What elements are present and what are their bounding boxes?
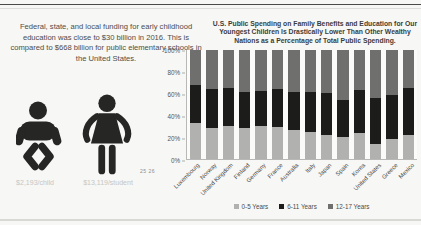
segment-6-11-years	[223, 88, 234, 126]
segment-0-5-years	[223, 126, 234, 160]
bar-norway	[206, 50, 217, 159]
legend: 0-5 Years6-11 Years12-17 Years	[186, 203, 417, 210]
spending-chart: U.S. Public Spending on Family Benefits …	[156, 20, 420, 210]
segment-0-5-years	[386, 139, 397, 160]
legend-label: 0-5 Years	[242, 203, 269, 210]
y-tick-60pct: 60%	[167, 91, 180, 98]
y-axis: 0%20%40%60%80%100%	[156, 50, 186, 160]
segment-6-11-years	[272, 89, 283, 127]
segment-0-5-years	[337, 137, 348, 160]
legend-label: 6-11 Years	[287, 203, 317, 210]
segment-12-17-years	[305, 50, 316, 91]
bar-france	[272, 50, 283, 159]
cost-per-child-label: $2,193/child	[0, 179, 70, 186]
bar-italy	[305, 50, 316, 159]
legend-swatch	[234, 204, 239, 209]
legend-swatch	[279, 204, 284, 209]
segment-6-11-years	[206, 89, 217, 128]
baby-icon	[16, 100, 66, 176]
segment-0-5-years	[272, 127, 283, 160]
segment-6-11-years	[403, 88, 414, 136]
segment-12-17-years	[403, 50, 414, 87]
bar-germany	[255, 50, 266, 159]
segment-12-17-years	[321, 50, 332, 93]
segment-0-5-years	[370, 144, 381, 159]
legend-swatch	[328, 204, 333, 209]
segment-12-17-years	[272, 50, 283, 88]
x-label-luxembourg: Luxembourg	[173, 162, 201, 190]
segment-6-11-years	[354, 90, 365, 134]
segment-6-11-years	[321, 93, 332, 136]
plot-area	[186, 50, 417, 160]
bar-japan	[321, 50, 332, 159]
segment-12-17-years	[337, 50, 348, 99]
segment-6-11-years	[239, 92, 250, 128]
y-tick-20pct: 20%	[167, 135, 180, 142]
segment-0-5-years	[354, 133, 365, 159]
bar-korea	[354, 50, 365, 159]
top-rule	[0, 4, 421, 6]
y-tick-100pct: 100%	[164, 47, 180, 54]
segment-12-17-years	[239, 50, 250, 91]
bar-united-states	[370, 50, 381, 159]
infographic-page: Selected Nations Federal, state, and loc…	[0, 0, 421, 225]
x-label-mexico: Mexico	[398, 162, 416, 180]
x-label-italy: Italy	[304, 162, 316, 174]
segment-12-17-years	[223, 50, 234, 87]
segment-12-17-years	[370, 50, 381, 98]
segment-0-5-years	[255, 126, 266, 160]
bar-australia	[288, 50, 299, 159]
y-tick-0pct: 0%	[171, 157, 180, 164]
chart-title: U.S. Public Spending on Family Benefits …	[210, 20, 420, 45]
bar-finland	[239, 50, 250, 159]
plot-wrap: 0%20%40%60%80%100%	[156, 50, 420, 160]
bar-mexico	[403, 50, 414, 159]
segment-0-5-years	[190, 123, 201, 159]
card-top-edge	[0, 8, 421, 9]
segment-0-5-years	[321, 135, 332, 159]
x-labels: LuxembourgNorwayUnited KingdomFinlandGer…	[186, 160, 417, 190]
x-label-japan: Japan	[317, 162, 333, 178]
x-label-spain: Spain	[334, 162, 349, 177]
segment-6-11-years	[305, 92, 316, 132]
legend-item-6-11-years: 6-11 Years	[279, 203, 317, 210]
segment-6-11-years	[386, 95, 397, 139]
bar-spain	[337, 50, 348, 159]
x-label-greece: Greece	[381, 162, 399, 180]
segment-12-17-years	[206, 50, 217, 88]
segment-0-5-years	[206, 128, 217, 160]
segment-0-5-years	[239, 128, 250, 160]
segment-6-11-years	[255, 91, 266, 126]
bars	[187, 50, 417, 159]
segment-12-17-years	[190, 50, 201, 85]
legend-label: 12-17 Years	[336, 203, 370, 210]
segment-6-11-years	[190, 85, 201, 123]
y-tick-40pct: 40%	[167, 113, 180, 120]
card-bottom-edge	[0, 219, 421, 221]
x-label-united-kingdom: United Kingdom	[200, 162, 234, 196]
y-tick-80pct: 80%	[167, 69, 180, 76]
segment-12-17-years	[354, 50, 365, 89]
segment-6-11-years	[337, 100, 348, 137]
segment-6-11-years	[288, 92, 299, 130]
bar-greece	[386, 50, 397, 159]
cost-per-student-label: $13,119/student	[70, 179, 146, 186]
student-icon	[76, 94, 138, 178]
footnote-references: 25 26	[140, 168, 155, 174]
segment-12-17-years	[255, 50, 266, 90]
bar-luxembourg	[190, 50, 201, 159]
bar-united-kingdom	[223, 50, 234, 159]
segment-6-11-years	[370, 98, 381, 144]
legend-item-12-17-years: 12-17 Years	[328, 203, 370, 210]
legend-item-0-5-years: 0-5 Years	[234, 203, 269, 210]
segment-0-5-years	[305, 132, 316, 159]
segment-0-5-years	[288, 130, 299, 159]
page-title: Selected Nations	[36, 0, 421, 2]
segment-12-17-years	[386, 50, 397, 95]
segment-12-17-years	[288, 50, 299, 91]
segment-0-5-years	[403, 135, 414, 159]
